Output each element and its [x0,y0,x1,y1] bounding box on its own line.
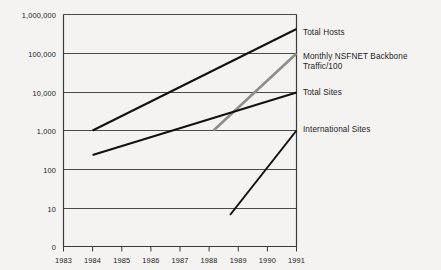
y-tick-label: 0 [0,242,56,251]
y-tick-label: 1,000 [0,126,56,135]
legend-label-total-sites: Total Sites [303,88,342,98]
y-tick-label: 100,000 [0,49,56,58]
legend-label-nsfnet-traffic: Monthly NSFNET Backbone Traffic/100 [303,52,408,71]
legend-label-international-sites: International Sites [303,125,370,135]
series-total-sites [93,93,297,156]
y-tick-label: 10 [0,204,56,213]
x-tick-label: 1991 [277,256,317,265]
y-tick-label: 1,000,000 [0,10,56,19]
x-tick-marks [64,247,297,252]
y-tick-label: 10,000 [0,88,56,97]
series-international-sites [230,131,297,216]
legend-label-total-hosts: Total Hosts [303,28,345,38]
series-total-hosts [93,29,297,131]
y-tick-label: 100 [0,165,56,174]
chart-canvas [0,0,441,270]
gridlines [64,15,297,247]
internet-growth-chart: 1,000,000 100,000 10,000 1,000 100 10 0 … [0,0,441,270]
